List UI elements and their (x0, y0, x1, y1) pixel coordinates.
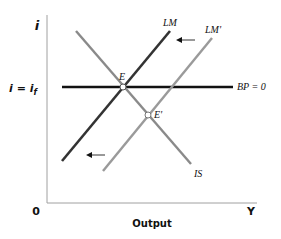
equilibrium-point-e-prime-label: E' (153, 109, 163, 120)
lm-shift-arrow-top (176, 37, 195, 43)
world-interest-rate-label: i = if (9, 82, 38, 97)
equilibrium-point-e (120, 84, 126, 90)
equilibrium-point-e-label: E (118, 71, 125, 82)
is-curve (76, 31, 191, 164)
lm-curve-label: LM (162, 17, 178, 28)
lm-prime-curve-label: LM' (204, 24, 222, 35)
y-axis-label: i (35, 18, 40, 33)
x-axis-label: Output (132, 218, 172, 229)
x-axis-end-label: Y (246, 205, 256, 218)
is-curve-label: IS (193, 168, 202, 179)
lm-shift-arrow-bottom (86, 152, 105, 158)
equilibrium-point-e-prime (145, 112, 151, 118)
bp-curve-label: BP = 0 (237, 81, 266, 92)
origin-label: 0 (32, 205, 40, 218)
is-lm-bp-diagram: i i = if 0 Y Output BP = 0 IS LM' LM E E… (0, 0, 281, 239)
lm-prime-curve (103, 38, 212, 171)
lm-curve (62, 31, 170, 161)
